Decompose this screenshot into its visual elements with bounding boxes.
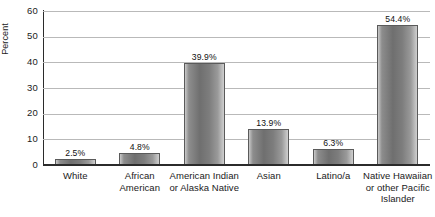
x-axis-label-line: Islander xyxy=(381,193,415,204)
y-axis-tick-label: 20 xyxy=(4,107,38,118)
bar xyxy=(313,149,354,165)
bar-value-label: 2.5% xyxy=(45,148,105,158)
x-axis-label-line: African xyxy=(125,170,155,181)
x-axis-category-label: Native Hawaiianor other PacificIslander xyxy=(362,170,434,205)
gridline xyxy=(43,139,430,140)
x-axis-label-line: American xyxy=(119,182,160,193)
gridline xyxy=(43,62,430,63)
bar-value-label: 54.4% xyxy=(368,14,428,24)
x-axis-label-line: American Indian xyxy=(170,170,239,181)
gridline xyxy=(43,11,430,12)
bar xyxy=(248,129,289,165)
y-axis-tick-label: 40 xyxy=(4,56,38,67)
gridline xyxy=(43,88,430,89)
gridline xyxy=(43,114,430,115)
bar-chart: Percent 0102030405060 2.5%4.8%39.9%13.9%… xyxy=(0,0,435,217)
x-axis-label-line: or Alaska Native xyxy=(170,182,239,193)
y-axis-tick-label: 50 xyxy=(4,30,38,41)
bar-value-label: 6.3% xyxy=(303,138,363,148)
x-axis-label-line: Latino/a xyxy=(316,170,350,181)
y-axis-tick-label: 30 xyxy=(4,82,38,93)
x-axis-category-label: White xyxy=(39,170,111,182)
x-axis-category-label: AfricanAmerican xyxy=(104,170,176,193)
x-axis-line xyxy=(43,164,430,166)
y-axis-tick-label: 10 xyxy=(4,133,38,144)
plot-area: 2.5%4.8%39.9%13.9%6.3%54.4% xyxy=(43,11,430,165)
y-axis-tick-label: 60 xyxy=(4,5,38,16)
bar-value-label: 4.8% xyxy=(110,142,170,152)
x-axis-label-line: or other Pacific xyxy=(366,182,430,193)
x-axis-category-label: Latino/a xyxy=(297,170,369,182)
x-axis-label-line: Asian xyxy=(257,170,281,181)
x-axis-label-line: White xyxy=(63,170,88,181)
x-axis-label-line: Native Hawaiian xyxy=(363,170,432,181)
y-axis-tick-labels: 0102030405060 xyxy=(0,0,38,217)
bar xyxy=(184,63,225,165)
bar xyxy=(377,25,418,165)
x-axis-category-label: Asian xyxy=(233,170,305,182)
bar-value-label: 39.9% xyxy=(174,52,234,62)
y-axis-tick-label: 0 xyxy=(4,159,38,170)
gridline xyxy=(43,37,430,38)
bar-value-label: 13.9% xyxy=(239,118,299,128)
x-axis-category-label: American Indianor Alaska Native xyxy=(168,170,240,193)
